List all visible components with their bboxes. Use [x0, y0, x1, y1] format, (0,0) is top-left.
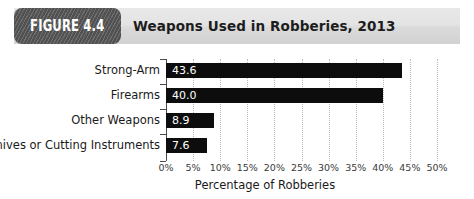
category-label: Other Weapons: [71, 113, 160, 128]
x-axis-title: Percentage of Robberies: [0, 178, 474, 192]
y-tick-mark: [160, 59, 166, 60]
bar-value-label: 40.0: [172, 88, 197, 103]
category-label: Strong-Arm: [95, 63, 160, 78]
bar-row: 40.0: [166, 88, 383, 103]
gridline-45pct: [410, 59, 411, 161]
bar-row: 43.6: [166, 63, 402, 78]
bar: [166, 88, 383, 103]
category-label: Firearms: [111, 88, 160, 103]
y-tick-mark: [160, 134, 166, 135]
bar: [166, 63, 402, 78]
figure-title: Weapons Used in Robberies, 2013: [133, 8, 396, 44]
y-axis-end-tick: [160, 161, 166, 162]
bar-value-label: 7.6: [172, 138, 190, 153]
x-tick-label: 50%: [420, 162, 454, 173]
gridline-50pct: [437, 59, 438, 161]
figure-number-badge: FIGURE 4.4: [14, 8, 121, 44]
category-label: Knives or Cutting Instruments: [0, 138, 160, 153]
bar-value-label: 8.9: [172, 113, 190, 128]
bar-value-label: 43.6: [172, 63, 197, 78]
y-tick-mark: [160, 109, 166, 110]
bar-chart: Percentage of Robberies 0%5%10%15%20%25%…: [0, 44, 474, 199]
bar-row: 8.9: [166, 113, 214, 128]
bar-row: 7.6: [166, 138, 207, 153]
figure-number-label: FIGURE 4.4: [30, 17, 104, 35]
y-tick-mark: [160, 84, 166, 85]
